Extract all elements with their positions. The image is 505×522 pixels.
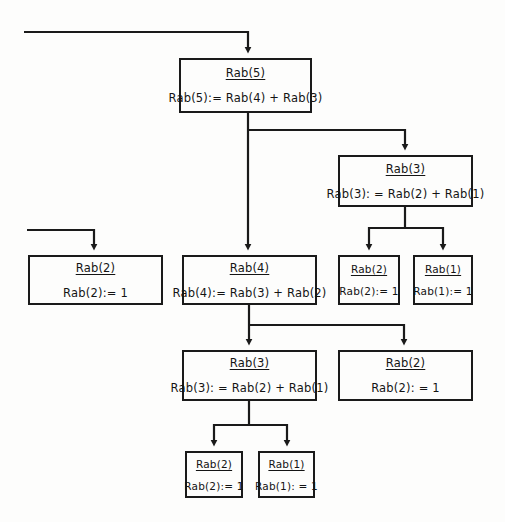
node-body: Rab(3): = Rab(2) + Rab(1) [171,381,329,395]
node-rab2-mid-right[interactable]: Rab(2) Rab(2): = 1 [338,350,473,401]
connector-rab3right-to-rab2-leaf-a [369,228,405,247]
node-body: Rab(3): = Rab(2) + Rab(1) [327,187,485,201]
node-header: Rab(2) [351,263,387,275]
node-body: Rab(2):= 1 [339,285,398,297]
node-header: Rab(3) [230,356,270,370]
connector-rab3lower-to-rab2-leaf-b [214,425,249,443]
node-header: Rab(2) [76,261,116,275]
node-rab5[interactable]: Rab(5) Rab(5):= Rab(4) + Rab(3) [179,58,312,113]
node-rab2-leaf-a[interactable]: Rab(2) Rab(2):= 1 [338,255,400,305]
connector-rab3lower-to-rab1-leaf-b [249,425,287,443]
node-body: Rab(2):= 1 [184,480,243,492]
node-header: Rab(5) [226,66,266,80]
node-body: Rab(1):= 1 [413,285,472,297]
node-rab2-leaf-b[interactable]: Rab(2) Rab(2):= 1 [185,451,243,498]
node-rab4[interactable]: Rab(4) Rab(4):= Rab(3) + Rab(2) [182,255,317,305]
node-rab3-lower[interactable]: Rab(3) Rab(3): = Rab(2) + Rab(1) [182,350,317,401]
connector-entry-to-rab2-left [27,230,94,247]
connector-rab5-to-rab3-right [248,130,405,147]
node-header: Rab(1) [425,263,461,275]
node-header: Rab(3) [386,162,426,176]
connector-rab3right-to-rab1-leaf-a [405,228,443,247]
node-body: Rab(2):= 1 [63,286,128,300]
node-rab1-leaf-b[interactable]: Rab(1) Rab(1): = 1 [258,451,315,498]
recursion-tree-diagram: Rab(5) Rab(5):= Rab(4) + Rab(3) Rab(3) R… [0,0,505,522]
node-body: Rab(2): = 1 [371,381,440,395]
node-body: Rab(1): = 1 [255,480,318,492]
node-rab3-right[interactable]: Rab(3) Rab(3): = Rab(2) + Rab(1) [338,155,473,207]
node-header: Rab(2) [196,458,232,470]
node-body: Rab(4):= Rab(3) + Rab(2) [172,286,326,300]
node-rab2-left[interactable]: Rab(2) Rab(2):= 1 [28,255,163,305]
connector-rab4-to-rab2-mid-right [249,325,404,342]
node-header: Rab(2) [386,356,426,370]
connector-entry-to-rab5 [24,32,248,50]
node-body: Rab(5):= Rab(4) + Rab(3) [168,91,322,105]
node-rab1-leaf-a[interactable]: Rab(1) Rab(1):= 1 [413,255,473,305]
node-header: Rab(4) [230,261,270,275]
node-header: Rab(1) [268,458,304,470]
